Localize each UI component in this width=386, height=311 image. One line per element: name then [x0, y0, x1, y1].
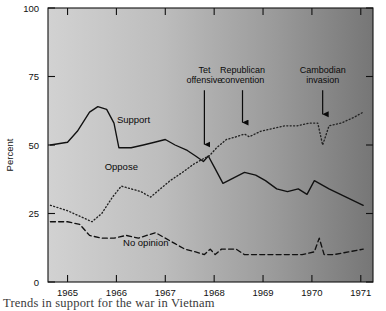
y-axis-title: Percent — [4, 138, 15, 171]
plot-area — [48, 8, 373, 282]
x-tick-label: 1969 — [252, 287, 273, 298]
y-tick-label: 25 — [28, 208, 39, 219]
annotation-label-line1: Cambodian — [300, 65, 346, 75]
annotation-label-line2: offensive — [186, 75, 222, 85]
x-tick-label: 1971 — [350, 287, 371, 298]
annotation-label-line2: invasion — [306, 75, 339, 85]
y-tick-label: 0 — [34, 277, 39, 288]
series-label-oppose: Oppose — [105, 161, 138, 172]
annotation-label-line1: Republican — [220, 65, 265, 75]
annotation-label-line2: convention — [221, 75, 265, 85]
y-tick-label: 75 — [28, 71, 39, 82]
series-label-no-opinion: No opinion — [123, 237, 168, 248]
figure-caption: Trends in support for the war in Vietnam — [3, 296, 215, 311]
y-tick-label: 50 — [28, 140, 39, 151]
x-tick-label: 1970 — [301, 287, 322, 298]
y-tick-label: 100 — [23, 3, 39, 14]
annotation-label-line1: Tet — [198, 65, 211, 75]
series-label-support: Support — [117, 114, 151, 125]
